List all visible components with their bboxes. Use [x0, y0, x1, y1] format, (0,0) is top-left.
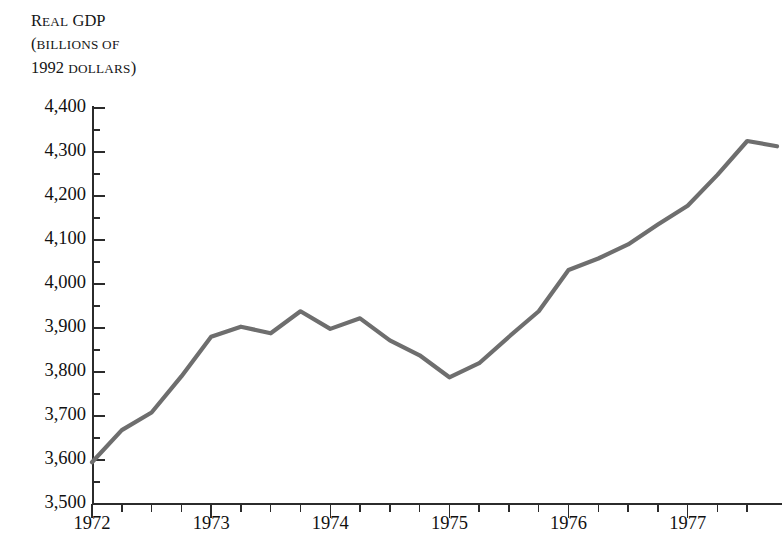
figure-container: Real GDP and the Recession of 1973–1975 … — [0, 0, 782, 555]
data-series-layer — [0, 0, 782, 555]
real-gdp-line — [92, 141, 777, 462]
